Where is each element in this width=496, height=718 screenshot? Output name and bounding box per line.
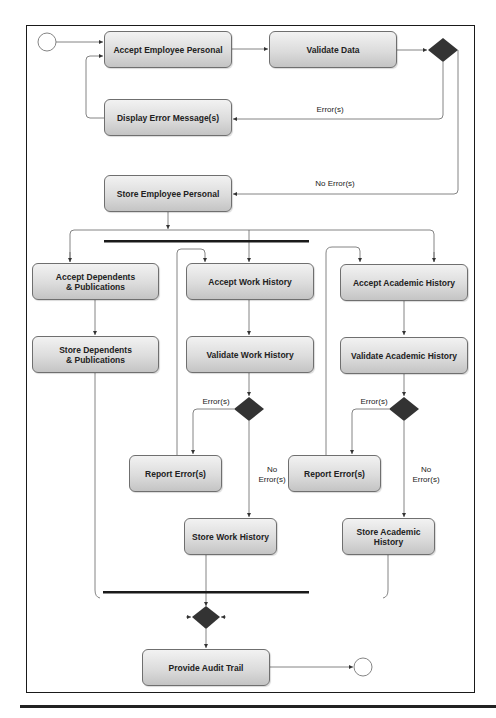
decision-validate-data — [428, 38, 458, 62]
node-accept-employee-personal: Accept Employee Personal — [104, 31, 232, 68]
initial-node — [38, 33, 56, 51]
node-validate-work-history: Validate Work History — [186, 336, 314, 373]
label-no-error-academic: No Error(s) — [406, 465, 446, 485]
node-report-errors-work: Report Error(s) — [129, 455, 222, 492]
caption-divider — [20, 705, 496, 708]
decision-work-history — [234, 397, 264, 421]
label-no-error-work: No Error(s) — [252, 465, 292, 485]
node-accept-academic-history: Accept Academic History — [340, 264, 468, 301]
node-accept-work-history: Accept Work History — [186, 263, 314, 300]
label-error-academic: Error(s) — [354, 397, 394, 407]
node-store-academic-history: Store Academic History — [342, 518, 435, 555]
node-store-dependents: Store Dependents & Publications — [32, 336, 159, 373]
label-error-top: Error(s) — [305, 105, 355, 115]
node-display-error-messages: Display Error Message(s) — [104, 99, 232, 136]
label-error-work: Error(s) — [196, 397, 236, 407]
node-store-employee-personal: Store Employee Personal — [104, 175, 232, 212]
node-validate-academic-history: Validate Academic History — [340, 337, 468, 374]
node-store-work-history: Store Work History — [184, 518, 277, 555]
join-bar — [103, 591, 309, 594]
node-report-errors-academic: Report Error(s) — [288, 455, 381, 492]
merge-node — [192, 606, 220, 629]
node-provide-audit-trail: Provide Audit Trail — [142, 649, 270, 686]
node-validate-data: Validate Data — [269, 31, 397, 68]
node-accept-dependents: Accept Dependents & Publications — [32, 263, 159, 300]
final-node — [354, 658, 372, 676]
label-no-error-top: No Error(s) — [305, 179, 365, 189]
fork-bar — [104, 240, 309, 243]
